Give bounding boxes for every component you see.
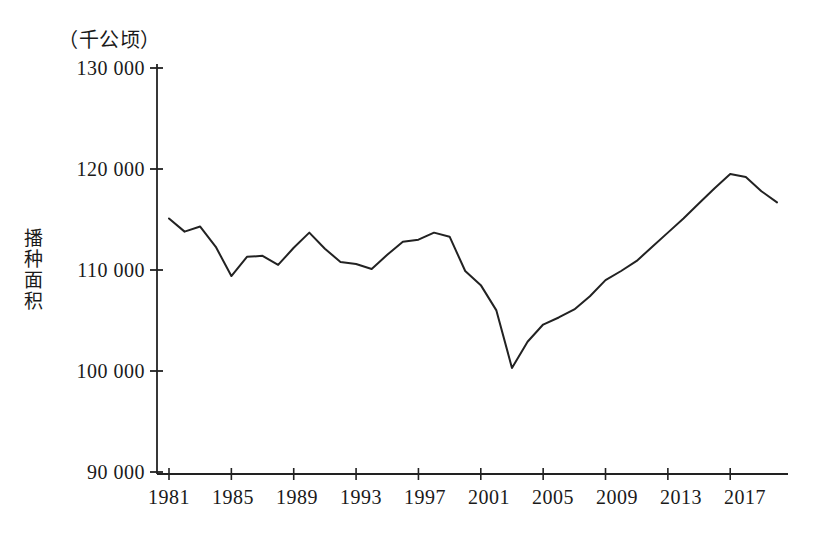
data-series-line <box>169 174 777 368</box>
chart-canvas <box>0 0 814 539</box>
axes <box>157 64 788 474</box>
line-chart: （千公顷） 播种面积 130 000 120 000 110 000 100 0… <box>0 0 814 539</box>
